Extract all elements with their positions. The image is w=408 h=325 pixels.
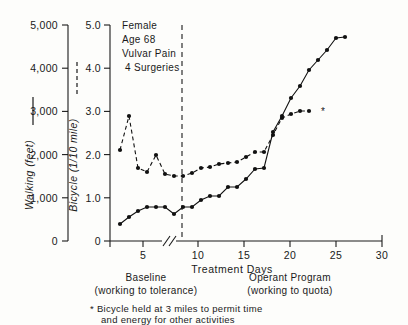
footnote-line-1: * Bicycle held at 3 miles to permit time [90, 303, 263, 314]
patient-info-line-1: Female [122, 20, 157, 31]
x-tick-5: 5 [140, 249, 146, 261]
bicycle-tick-50: 5.0 [86, 19, 102, 31]
patient-info-line-4: 4 Surgeries [125, 62, 179, 73]
bicycle-axis: 5.0 4.0 3.0 2.0 1.0 0 Bicycle (1/10 mile… [67, 19, 110, 247]
x-axis: 5 10 15 20 25 30 Treatment Days [110, 235, 388, 275]
bicycle-tick-10: 1.0 [86, 192, 102, 204]
patient-info-line-2: Age 68 [122, 34, 156, 45]
walking-axis-title: Walking (feet) [23, 140, 35, 210]
bicycle-tick-20: 2.0 [86, 149, 102, 161]
footnote-block: * Bicycle held at 3 miles to permit time… [90, 303, 263, 325]
x-tick-20: 20 [284, 249, 296, 261]
footnote-line-2: and energy for other activities [101, 314, 235, 325]
bicycle-series: * [118, 106, 325, 178]
x-tick-25: 25 [330, 249, 342, 261]
asterisk-marker: * [321, 106, 325, 117]
walking-axis: 5,000 4,000 3,000 2,000 1,000 0 Walking … [23, 19, 68, 247]
x-tick-30: 30 [376, 249, 388, 261]
patient-info-line-3: Vulvar Pain [122, 48, 176, 59]
phase-sublabel-baseline: (working to tolerance) [95, 285, 198, 296]
walking-tick-3000: 3,000 [30, 105, 58, 117]
bicycle-tick-0: 0 [95, 235, 101, 247]
walking-tick-5000: 5,000 [30, 19, 58, 31]
axis-break-icon [163, 236, 176, 246]
x-tick-10: 10 [192, 249, 204, 261]
bicycle-axis-title: Bicycle (1/10 mile) [67, 118, 79, 211]
bicycle-markers [118, 109, 311, 178]
bicycle-line [120, 111, 309, 176]
phase-sublabel-operant: (working to quota) [247, 285, 332, 296]
bicycle-tick-30: 3.0 [86, 105, 102, 117]
chart-svg: 5,000 4,000 3,000 2,000 1,000 0 Walking … [0, 0, 408, 325]
phase-label-baseline: Baseline [126, 272, 167, 283]
patient-info-annotation: Female Age 68 Vulvar Pain 4 Surgeries [122, 20, 179, 73]
walking-tick-4000: 4,000 [30, 62, 58, 74]
x-tick-15: 15 [238, 249, 250, 261]
phase-labels: Baseline (working to tolerance) Operant … [95, 272, 333, 296]
phase-label-operant: Operant Program [249, 272, 331, 283]
bicycle-tick-40: 4.0 [86, 62, 102, 74]
chart-figure: 5,000 4,000 3,000 2,000 1,000 0 Walking … [0, 0, 408, 325]
walking-tick-0: 0 [52, 235, 58, 247]
